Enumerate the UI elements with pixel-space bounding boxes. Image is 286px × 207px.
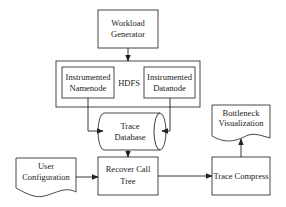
- node-trace-database: Trace Database: [98, 113, 166, 150]
- system-diagram: Workload Generator HDFS Instrumented Nam…: [0, 0, 286, 207]
- trace-database-line2: Database: [114, 132, 145, 142]
- node-instrumented-datanode: Instrumented Datanode: [144, 67, 195, 98]
- node-trace-compress: Trace Compress: [212, 157, 270, 195]
- trace-compress-label: Trace Compress: [213, 171, 268, 181]
- namenode-line2: Namenode: [70, 83, 107, 93]
- node-workload-generator: Workload Generator: [98, 10, 158, 48]
- datanode-line2: Datanode: [153, 83, 186, 93]
- node-recover-call-tree: Recover Call Tree: [98, 157, 158, 195]
- node-user-configuration: User Configuration: [16, 158, 76, 197]
- workload-generator-line2: Generator: [111, 29, 145, 39]
- node-instrumented-namenode: Instrumented Namenode: [62, 67, 114, 98]
- bottleneck-visualization-line1: Bottleneck: [223, 108, 261, 118]
- user-configuration-line2: Configuration: [22, 172, 70, 182]
- node-bottleneck-visualization: Bottleneck Visualization: [212, 105, 270, 141]
- bottleneck-visualization-line2: Visualization: [219, 118, 265, 128]
- recover-call-tree-line1: Recover Call: [106, 164, 151, 174]
- namenode-line1: Instrumented: [66, 72, 112, 82]
- user-configuration-line1: User: [38, 161, 54, 171]
- datanode-line1: Instrumented: [147, 72, 193, 82]
- workload-generator-line1: Workload: [111, 18, 145, 28]
- trace-database-line1: Trace: [120, 121, 139, 131]
- recover-call-tree-line2: Tree: [120, 176, 135, 186]
- hdfs-label: HDFS: [118, 78, 140, 88]
